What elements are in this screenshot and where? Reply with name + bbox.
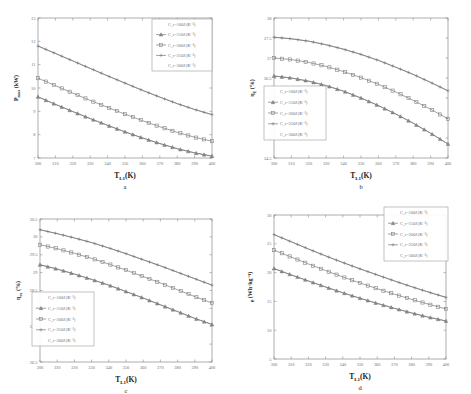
series-d-0 [274, 269, 446, 321]
x-tick-label: 330 [323, 161, 330, 166]
series-b-4 [274, 37, 448, 91]
x-tick-label: 350 [123, 365, 130, 370]
legend-label: C_r=250J/(K⁻¹) [400, 242, 428, 247]
x-tick-label: 300 [37, 365, 44, 370]
x-tick-label: 360 [375, 161, 382, 166]
legend-label: C_r=250J/(K⁻¹) [48, 327, 76, 332]
x-tick-label: 380 [408, 362, 415, 367]
x-tick-label: 300 [271, 362, 278, 367]
y-tick-label: 10 [267, 328, 272, 333]
x-tick-label: 320 [305, 362, 312, 367]
chart-svg-a: 3003103203303403503603703803904007891011… [0, 0, 235, 197]
marker-triangle [430, 132, 434, 135]
legend-label: C_r=100J/(K⁻¹) [400, 210, 428, 215]
x-axis-title: TL1(K) [115, 375, 137, 385]
x-tick-label: 370 [391, 362, 398, 367]
chart-panel-a: 3003103203303403503603703803904007891011… [0, 0, 235, 197]
x-tick-label: 340 [106, 365, 113, 370]
series-c-4 [40, 230, 212, 285]
legend-label: C_r=200J/(K⁻¹) [168, 43, 196, 48]
marker-triangle [422, 128, 426, 131]
y-tick-label: 26.5 [30, 360, 38, 365]
y-tick-label: 29.5 [30, 252, 38, 257]
y-tick-label: 30.5 [30, 217, 38, 222]
x-tick-label: 400 [209, 365, 216, 370]
legend-label: C_r=200J/(K⁻¹) [280, 111, 308, 116]
chart-svg-c: 30031032033034035036037038039040026.5272… [0, 197, 235, 394]
legend-label: C_r=300J/(K⁻¹) [400, 253, 428, 258]
marker-triangle [36, 95, 40, 98]
x-tick-label: 330 [87, 161, 94, 166]
chart-panel-b: 30031032033034035036037038039040034.5353… [236, 0, 471, 197]
x-tick-label: 390 [192, 365, 199, 370]
marker-triangle [44, 98, 48, 101]
marker-triangle [446, 142, 450, 145]
series-c-3 [38, 228, 213, 287]
marker-triangle [38, 263, 42, 266]
figure-container: 3003103203303403503603703803904007891011… [0, 0, 471, 394]
x-tick-label: 300 [271, 161, 278, 166]
x-tick-label: 340 [340, 161, 347, 166]
series-b-3 [272, 36, 449, 93]
y-axis-title: Pmax (kW) [13, 75, 21, 101]
legend-label: C_r=300J/(K⁻¹) [168, 63, 196, 68]
x-tick-label: 310 [288, 362, 295, 367]
x-tick-label: 310 [288, 161, 295, 166]
series-line [274, 37, 448, 91]
x-tick-label: 310 [54, 365, 61, 370]
panel-letter-a: a [124, 183, 127, 190]
panel-letter-c: c [125, 387, 128, 394]
y-tick-label: 34.5 [264, 156, 272, 161]
y-tick-label: 20 [267, 270, 272, 275]
x-tick-label: 350 [122, 161, 129, 166]
y-tick-label: 38 [267, 16, 272, 21]
x-tick-label: 390 [191, 161, 198, 166]
x-tick-label: 330 [88, 365, 95, 370]
series-line [40, 230, 212, 285]
series-a-1 [36, 95, 214, 158]
y-tick-label: 37 [267, 56, 272, 61]
marker-triangle [272, 267, 276, 270]
legend-label: C_r=150J/(K⁻¹) [400, 221, 428, 226]
x-tick-label: 370 [157, 365, 164, 370]
legend-label: C_r=100J/(K⁻¹) [48, 295, 76, 300]
x-tick-label: 350 [358, 161, 365, 166]
panel-letter-b: b [359, 183, 362, 190]
x-tick-label: 300 [35, 161, 42, 166]
x-tick-label: 390 [427, 161, 434, 166]
x-tick-label: 390 [426, 362, 433, 367]
y-tick-label: 29 [33, 270, 38, 275]
x-tick-label: 310 [52, 161, 59, 166]
x-tick-label: 360 [140, 365, 147, 370]
x-tick-label: 400 [209, 161, 216, 166]
x-tick-label: 330 [322, 362, 329, 367]
series-line [274, 37, 448, 91]
series-line [274, 269, 446, 321]
x-tick-label: 320 [70, 161, 77, 166]
chart-panel-c: 30031032033034035036037038039040026.5272… [0, 197, 235, 394]
x-tick-label: 370 [393, 161, 400, 166]
x-tick-label: 320 [306, 161, 313, 166]
x-axis-title: TL1(K) [114, 171, 136, 181]
x-tick-label: 360 [374, 362, 381, 367]
y-axis-title: ηex (%) [15, 281, 23, 300]
marker-triangle [391, 111, 395, 114]
y-tick-label: 10 [31, 86, 36, 91]
y-tick-label: 13 [31, 16, 36, 21]
legend-label: C_r=150J/(K⁻¹) [280, 100, 308, 105]
legend-label: C_r=250J/(K⁻¹) [280, 121, 308, 126]
x-tick-label: 380 [410, 161, 417, 166]
marker-triangle [407, 119, 411, 122]
series-line [274, 269, 446, 321]
marker-triangle [375, 103, 379, 106]
x-axis-title: TL1(K) [349, 372, 371, 382]
y-tick-label: 11 [31, 62, 35, 67]
x-tick-label: 380 [174, 365, 181, 370]
y-tick-label: 30 [267, 213, 272, 218]
series-line [38, 97, 212, 156]
series-a-0 [38, 97, 212, 156]
x-tick-label: 320 [71, 365, 78, 370]
y-tick-label: 9 [33, 109, 36, 114]
legend-label: C_r=150J/(K⁻¹) [168, 32, 196, 37]
marker-triangle [383, 107, 387, 110]
